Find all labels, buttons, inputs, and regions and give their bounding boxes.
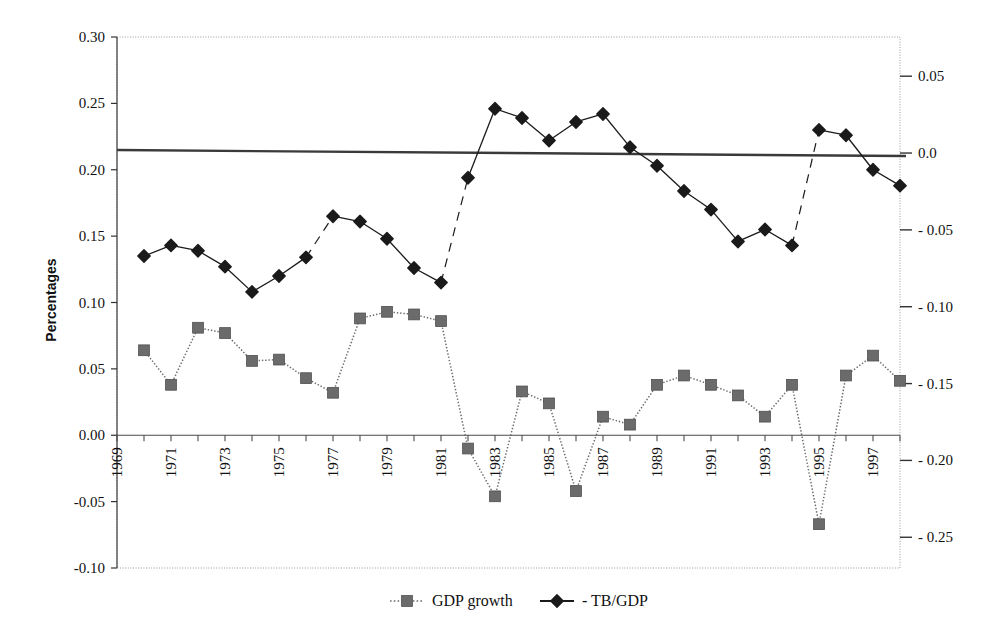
data-point-square [355,313,366,324]
y-tick-label-left: 0.05 [79,361,105,377]
x-tick-label: 1977 [325,447,341,478]
data-point-square [625,419,636,430]
x-tick-label: 1993 [757,447,773,477]
chart-canvas: 0.300.250.200.150.100.050.00-0.05-0.10 0… [0,0,1001,637]
y-tick-label-left: 0.10 [79,295,105,311]
data-point-square [463,443,474,454]
x-tick-label: 1985 [541,447,557,477]
data-point-square [544,398,555,409]
y-tick-label-left: -0.10 [74,560,105,576]
data-point-square [220,328,231,339]
data-point-square [490,491,501,502]
x-tick-label: 1975 [271,447,287,477]
y-tick-label-left: 0.25 [79,95,105,111]
data-point-square [247,356,258,367]
data-point-square [571,486,582,497]
legend-label-2: - TB/GDP [582,592,648,609]
x-tick-label: 1969 [109,447,125,477]
chart-background [0,0,1001,637]
data-point-square [652,379,663,390]
x-tick-label: 1973 [217,447,233,477]
y-tick-label-right: - 0.20 [918,452,953,468]
y-tick-label-left: 0.15 [79,228,105,244]
data-point-square [787,379,798,390]
x-tick-label: 1971 [163,447,179,477]
data-point-square [841,370,852,381]
x-tick-label: 1981 [433,447,449,477]
data-point-square [733,390,744,401]
y-tick-label-right: 0.0 [918,145,937,161]
x-tick-label: 1979 [379,447,395,477]
x-tick-label: 1989 [649,447,665,477]
data-point-square [895,375,906,386]
data-point-square [382,306,393,317]
legend-label-1: GDP growth [432,592,513,610]
data-point-square [301,373,312,384]
data-point-square [139,345,150,356]
data-point-square [517,386,528,397]
data-point-square [760,411,771,422]
y-tick-label-left: 0.30 [79,29,105,45]
data-point-square [166,379,177,390]
y-tick-label-right: - 0.10 [918,299,953,315]
data-point-square [679,370,690,381]
x-tick-label: 1995 [811,447,827,477]
data-point-square [402,596,413,607]
y-tick-label-right: - 0.25 [918,529,953,545]
chart-figure: 0.300.250.200.150.100.050.00-0.05-0.10 0… [0,0,1001,637]
y-tick-label-left: 0.20 [79,162,105,178]
y-tick-label-left: -0.05 [74,494,105,510]
data-point-square [814,519,825,530]
data-point-square [598,411,609,422]
y-tick-label-right: - 0.05 [918,222,953,238]
y-tick-label-left: 0.00 [79,427,105,443]
y-tick-label-right: 0.05 [918,68,944,84]
data-point-square [193,322,204,333]
data-point-square [409,309,420,320]
y-tick-label-right: - 0.15 [918,376,953,392]
x-tick-label: 1991 [703,447,719,477]
data-point-square [706,379,717,390]
x-tick-label: 1997 [865,447,881,478]
y-axis-title: Percentages [43,258,59,341]
y-axis-title-text: Percentages [43,258,59,341]
data-point-square [328,387,339,398]
data-point-square [436,316,447,327]
data-point-square [868,350,879,361]
x-tick-label: 1987 [595,447,611,478]
data-point-square [274,354,285,365]
